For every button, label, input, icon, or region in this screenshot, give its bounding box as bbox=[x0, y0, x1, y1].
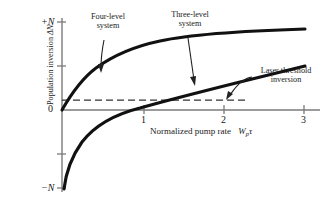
annotation-three-level-line2: system bbox=[160, 19, 220, 28]
y-axis-title: Population inversion ΔN bbox=[39, 25, 53, 105]
annotation-four-level-system: Four-level system bbox=[80, 12, 136, 30]
x-axis-title: Normalized pump rate Wpτ bbox=[150, 126, 252, 137]
four-level-annotation-arrowhead bbox=[98, 64, 104, 73]
annotation-four-level-line1: Four-level bbox=[80, 12, 136, 21]
y-tick-label-minus-n: −N bbox=[41, 182, 54, 193]
three-level-annotation-arrow bbox=[188, 38, 194, 80]
x-tick-label-1: 1 bbox=[141, 114, 146, 125]
three-level-annotation-arrowhead bbox=[190, 76, 196, 86]
annotation-laser-threshold-inversion: Laser threshold inversion bbox=[250, 66, 322, 84]
x-axis-title-text: Normalized pump rate bbox=[150, 126, 231, 136]
x-tick-label-3: 3 bbox=[301, 114, 306, 125]
annotation-three-level-system: Three-level system bbox=[160, 10, 220, 28]
annotation-three-level-line1: Three-level bbox=[160, 10, 220, 19]
x-axis-symbol-w: W bbox=[238, 126, 246, 136]
x-tick-label-2: 2 bbox=[221, 114, 226, 125]
annotation-four-level-line2: system bbox=[80, 21, 136, 30]
laser-population-inversion-figure: +N 0 −N 1 2 3 Population inversion ΔN No… bbox=[0, 0, 332, 202]
y-axis-title-symbol: ΔN bbox=[46, 25, 55, 35]
annotation-laser-threshold-line2: inversion bbox=[250, 75, 322, 84]
annotation-laser-threshold-line1: Laser threshold bbox=[250, 66, 322, 75]
y-axis-title-line1: Population bbox=[46, 70, 55, 105]
y-axis-title-line2: inversion bbox=[46, 37, 55, 67]
x-axis-symbol-tau: τ bbox=[249, 126, 252, 136]
